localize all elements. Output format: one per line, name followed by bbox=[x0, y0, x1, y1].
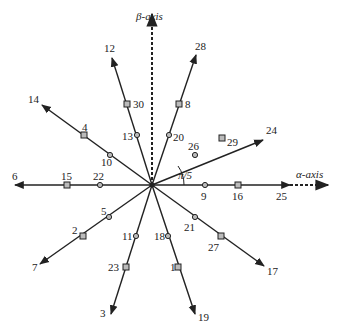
vector-ray-28 bbox=[152, 55, 196, 185]
alpha-axis-label: α-axis bbox=[296, 168, 323, 180]
vector-marker-label: 15 bbox=[61, 170, 73, 182]
circle-marker-icon bbox=[134, 132, 139, 137]
vector-ray-7 bbox=[40, 185, 152, 264]
vector-marker-label: 21 bbox=[184, 221, 195, 233]
vector-marker-label: 20 bbox=[173, 131, 185, 143]
vector-end-label: 28 bbox=[195, 40, 207, 52]
vector-end-label: 19 bbox=[198, 311, 210, 323]
vector-end-label: 25 bbox=[276, 190, 288, 202]
vector-ray-12 bbox=[112, 58, 152, 185]
vector-marker-label: 9 bbox=[201, 190, 207, 202]
vector-marker-label: 23 bbox=[108, 261, 120, 273]
vector-marker-label: 5 bbox=[101, 205, 107, 217]
square-marker-icon bbox=[235, 182, 241, 188]
vector-marker-label: 29 bbox=[227, 136, 239, 148]
vector-ray-17 bbox=[152, 185, 264, 266]
circle-marker-icon bbox=[202, 182, 207, 187]
vector-marker-label: 4 bbox=[82, 121, 88, 133]
beta-axis-label: β-axis bbox=[135, 10, 163, 22]
circle-marker-icon bbox=[166, 132, 171, 137]
vector-marker-label: 1 bbox=[170, 261, 176, 273]
vector-marker-label: 22 bbox=[93, 170, 104, 182]
vector-marker-label: 27 bbox=[208, 241, 220, 253]
vector-marker-label: 30 bbox=[133, 98, 145, 110]
vector-end-label: 14 bbox=[28, 93, 40, 105]
vector-marker-label: 13 bbox=[122, 130, 134, 142]
square-marker-icon bbox=[64, 182, 70, 188]
square-marker-icon bbox=[175, 264, 181, 270]
square-marker-icon bbox=[219, 135, 225, 141]
vector-end-label: 24 bbox=[266, 124, 278, 136]
vector-end-label: 6 bbox=[12, 170, 18, 182]
vector-end-label: 3 bbox=[100, 307, 106, 319]
square-marker-icon bbox=[80, 233, 86, 239]
vector-ray-3 bbox=[111, 185, 152, 314]
vector-marker-label: 8 bbox=[185, 98, 191, 110]
vector-marker-label: 11 bbox=[122, 230, 133, 242]
origin-point bbox=[150, 183, 155, 188]
vector-marker-label: 10 bbox=[101, 156, 113, 168]
vector-end-label: 12 bbox=[104, 42, 115, 54]
circle-marker-icon bbox=[192, 152, 197, 157]
square-marker-icon bbox=[176, 101, 182, 107]
circle-marker-icon bbox=[133, 233, 138, 238]
circle-marker-icon bbox=[165, 233, 170, 238]
vector-end-label: 7 bbox=[32, 261, 38, 273]
circle-marker-icon bbox=[97, 182, 102, 187]
square-marker-icon bbox=[123, 264, 129, 270]
vector-ray-19 bbox=[152, 185, 195, 314]
vector-end-label: 17 bbox=[267, 265, 279, 277]
vector-marker-label: 16 bbox=[232, 190, 244, 202]
space-vector-diagram: 2591624262928208121330141046221575231123… bbox=[0, 0, 347, 333]
square-marker-icon bbox=[218, 233, 224, 239]
vector-marker-label: 2 bbox=[72, 224, 78, 236]
square-marker-icon bbox=[124, 101, 130, 107]
circle-marker-icon bbox=[192, 214, 197, 219]
vector-marker-label: 18 bbox=[154, 230, 166, 242]
angle-label: π/5 bbox=[178, 169, 193, 181]
vector-ray-24 bbox=[152, 140, 263, 185]
circle-marker-icon bbox=[106, 214, 111, 219]
vector-marker-label: 26 bbox=[188, 140, 200, 152]
